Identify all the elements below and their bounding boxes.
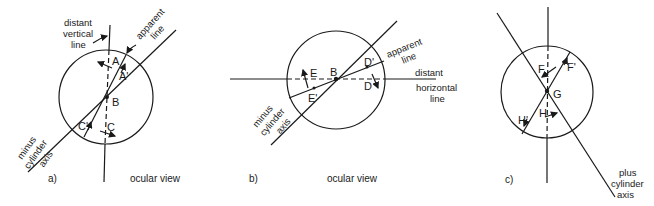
label-axis: axis <box>617 189 634 200</box>
label-h-prime: H' <box>518 114 528 126</box>
center-point-b <box>105 95 109 99</box>
label-c-prime: C' <box>78 120 88 132</box>
label-d-prime: D' <box>364 56 374 68</box>
arrow-c-prime-icon <box>88 122 91 130</box>
label-cylinder: cylinder <box>611 178 644 189</box>
label-line: line <box>71 39 86 50</box>
label-h: H <box>539 107 547 119</box>
label-e: E <box>310 67 317 79</box>
distant-vertical-line <box>109 25 110 50</box>
pointer-vertical-icon <box>93 36 107 43</box>
label-e-prime: E' <box>308 92 317 104</box>
label-b: B <box>112 96 119 108</box>
label-d: D <box>364 80 372 92</box>
view-label-a: ocular view <box>130 173 181 184</box>
minus-cylinder-axis-line <box>271 21 397 145</box>
label-f: F <box>538 63 545 75</box>
caption-c: c) <box>505 174 513 185</box>
label-a-prime: A' <box>119 70 128 82</box>
panel-c: F F' G H H' plus cylinder axis c) <box>497 7 644 200</box>
label-distant: distant <box>64 17 92 28</box>
label-f-prime: F' <box>567 61 576 73</box>
optics-diagram: A A' B C C' distant vertical line appare… <box>0 0 654 206</box>
label-horizontal: horizontal <box>416 82 457 93</box>
arrow-d-icon <box>372 74 378 88</box>
center-point-g <box>545 89 549 93</box>
arrow-a-icon <box>98 62 112 68</box>
caption-b: b) <box>249 173 258 184</box>
label-a: A <box>112 55 120 67</box>
label-distant: distant <box>415 67 443 78</box>
pointer-apparent-icon <box>127 45 136 53</box>
view-label-b: ocular view <box>327 173 378 184</box>
panel-a: A A' B C C' distant vertical line appare… <box>12 6 180 184</box>
label-horizontal-line: line <box>430 93 445 104</box>
label-g: G <box>553 88 562 100</box>
label-c: C <box>107 121 115 133</box>
caption-a: a) <box>48 173 57 184</box>
panel-b: E E' B D' D apparent line distant horizo… <box>230 21 457 184</box>
label-plus: plus <box>619 167 637 178</box>
label-b: B <box>330 66 337 78</box>
label-vertical: vertical <box>63 28 93 39</box>
plus-cylinder-axis-line <box>497 13 615 197</box>
